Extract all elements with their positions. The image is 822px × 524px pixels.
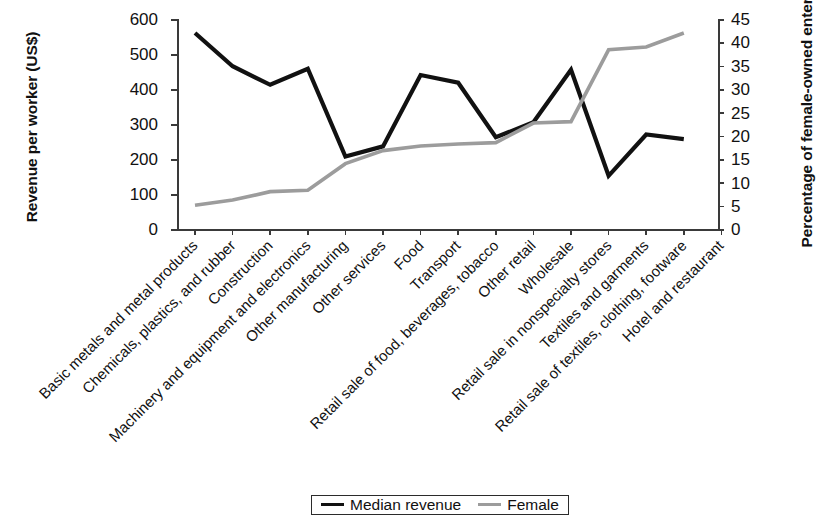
legend-swatch-median-revenue <box>321 503 344 507</box>
legend-item-median-revenue: Median revenue <box>321 496 461 514</box>
x-axis-category-labels: Basic metals and metal productsChemicals… <box>0 0 822 524</box>
legend-label-median-revenue: Median revenue <box>350 496 461 514</box>
legend-item-female: Female <box>478 496 559 514</box>
chart-container: Revenue per worker (US$) Percentage of f… <box>0 0 822 524</box>
chart-legend: Median revenue Female <box>311 495 569 515</box>
legend-label-female: Female <box>507 496 559 514</box>
legend-swatch-female <box>478 503 501 506</box>
